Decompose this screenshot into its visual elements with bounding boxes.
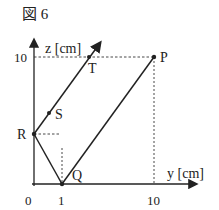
point-p: [152, 55, 156, 59]
label-p: P: [160, 50, 168, 65]
label-t: T: [88, 61, 97, 76]
ray-q-r: [34, 134, 62, 184]
y-tick-1: 1: [58, 193, 65, 208]
point-s: [47, 111, 51, 115]
diagram: z [cm] y [cm] 10 0 1 10 P Q R S T: [0, 0, 219, 210]
label-q: Q: [72, 168, 82, 183]
point-r: [32, 132, 36, 136]
point-t: [87, 55, 91, 59]
z-tick-10: 10: [14, 50, 27, 65]
point-q: [60, 182, 64, 186]
origin-label: 0: [25, 193, 32, 208]
y-axis-label: y [cm]: [167, 166, 204, 181]
z-axis-label: z [cm]: [45, 41, 81, 56]
y-tick-10: 10: [147, 193, 160, 208]
label-s: S: [55, 107, 63, 122]
label-r: R: [17, 127, 27, 142]
